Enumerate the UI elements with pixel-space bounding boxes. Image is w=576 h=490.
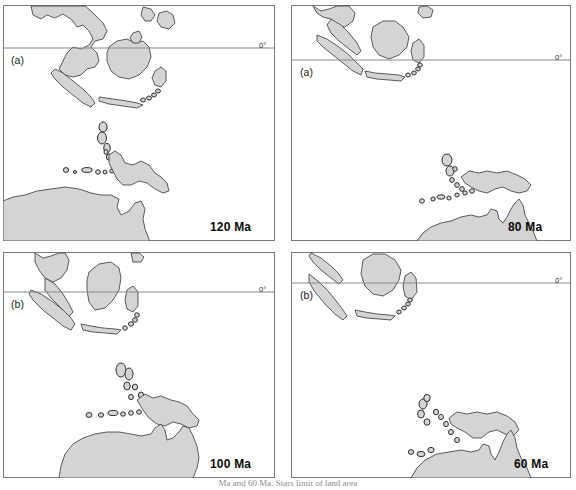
panel-frame	[292, 253, 571, 478]
map-panel-80ma: (a) 0° 80 Ma	[291, 5, 571, 241]
equator-label: 0°	[555, 53, 562, 62]
equator-label: 0°	[259, 41, 266, 50]
figure-caption: Ma and 60 Ma. Stars limit of land area	[0, 478, 576, 490]
age-label: 120 Ma	[210, 220, 251, 234]
map-svg-80ma	[291, 5, 571, 241]
map-panel-60ma: (b) 0° 60 Ma	[291, 252, 571, 478]
panel-frame	[292, 6, 571, 241]
age-label: 60 Ma	[514, 457, 548, 471]
map-svg-120ma	[3, 5, 275, 241]
panel-letter: (a)	[11, 54, 24, 66]
equator-label: 0°	[259, 285, 266, 294]
age-label: 80 Ma	[508, 220, 542, 234]
map-panel-120ma: (a) 0° 120 Ma	[3, 5, 275, 241]
map-svg-100ma	[3, 252, 275, 478]
map-svg-60ma	[291, 252, 571, 478]
panel-letter: (b)	[300, 289, 313, 301]
figure-container: (a) 0° 120 Ma	[0, 0, 576, 490]
panel-letter: (b)	[11, 298, 24, 310]
age-label: 100 Ma	[210, 457, 251, 471]
equator-label: 0°	[555, 276, 562, 285]
panel-letter: (a)	[300, 66, 313, 78]
map-panel-100ma: (b) 0° 100 Ma	[3, 252, 275, 478]
